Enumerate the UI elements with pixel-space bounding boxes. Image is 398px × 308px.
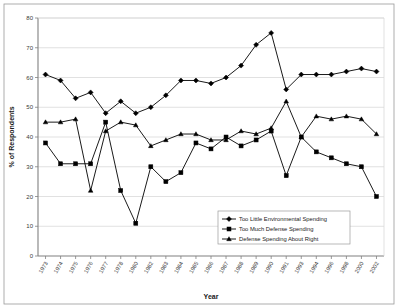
- data-point-square: [164, 180, 168, 184]
- y-axis-title: % of Respondents: [8, 106, 16, 167]
- data-point-square: [149, 165, 153, 169]
- y-tick-label: 80: [26, 15, 33, 21]
- data-point-square: [227, 227, 231, 231]
- data-point-square: [209, 147, 213, 151]
- data-point-square: [74, 162, 78, 166]
- data-point-square: [119, 189, 123, 193]
- y-tick-label: 40: [26, 134, 33, 140]
- data-point-square: [194, 141, 198, 145]
- data-point-square: [314, 150, 318, 154]
- x-axis-title: Year: [204, 293, 219, 300]
- data-point-square: [329, 156, 333, 160]
- y-tick-label: 60: [26, 75, 33, 81]
- y-tick-label: 50: [26, 104, 33, 110]
- data-point-square: [44, 141, 48, 145]
- y-tick-label: 30: [26, 164, 33, 170]
- line-chart: 0102030405060708019731974197519761977197…: [0, 0, 398, 308]
- data-point-square: [89, 162, 93, 166]
- y-tick-label: 20: [26, 194, 33, 200]
- data-point-square: [104, 120, 108, 124]
- y-tick-label: 70: [26, 45, 33, 51]
- data-point-square: [239, 144, 243, 148]
- data-point-square: [59, 162, 63, 166]
- data-point-square: [134, 221, 138, 225]
- legend-label: Too Much Defense Spending: [239, 226, 313, 232]
- data-point-square: [254, 138, 258, 142]
- data-point-square: [374, 195, 378, 199]
- data-point-square: [284, 174, 288, 178]
- data-point-square: [179, 171, 183, 175]
- chart-container: 0102030405060708019731974197519761977197…: [0, 0, 398, 308]
- legend-label: Too Little Environmental Spending: [239, 216, 327, 222]
- y-tick-label: 10: [26, 223, 33, 229]
- data-point-square: [344, 162, 348, 166]
- data-point-square: [359, 165, 363, 169]
- chart-legend: Too Little Environmental SpendingToo Muc…: [218, 211, 350, 244]
- legend-label: Defense Spending About Right: [239, 236, 319, 242]
